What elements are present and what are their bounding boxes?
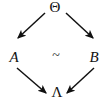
arrow-a-to-lambda <box>17 68 46 93</box>
node-label-b: B <box>84 50 104 65</box>
node-label-a: A <box>4 50 24 65</box>
arrow-theta-to-b <box>66 13 93 38</box>
node-label-theta: Θ <box>44 0 66 15</box>
node-label-lambda: Λ <box>47 85 67 100</box>
arrow-theta-to-a <box>18 13 45 38</box>
center-tilde-symbol: ~ <box>46 49 66 63</box>
arrow-b-to-lambda <box>67 68 94 93</box>
commutative-diagram: Θ A B Λ ~ <box>0 0 110 106</box>
